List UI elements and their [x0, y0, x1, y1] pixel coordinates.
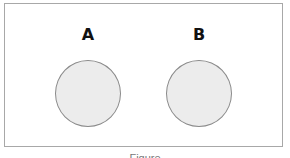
diagram-frame — [4, 3, 283, 147]
set-b-circle — [166, 60, 232, 127]
set-a-circle — [55, 60, 121, 127]
set-a-label: A — [82, 25, 94, 44]
set-b-label: B — [193, 25, 205, 44]
figure-caption: Figure — [0, 152, 290, 158]
